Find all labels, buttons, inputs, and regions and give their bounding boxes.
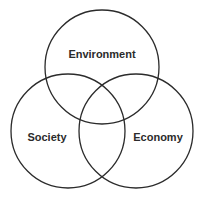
society-label: Society: [27, 131, 67, 143]
economy-label: Economy: [133, 131, 183, 143]
venn-diagram: Environment Society Economy: [0, 0, 204, 198]
environment-circle: [45, 10, 159, 124]
environment-label: Environment: [68, 48, 136, 60]
